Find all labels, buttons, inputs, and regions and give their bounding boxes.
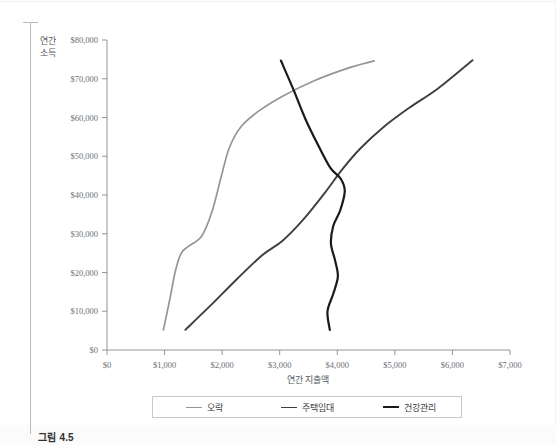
x-tick-label: $1,000 bbox=[153, 360, 176, 370]
chart-svg: $0$10,000$20,000$30,000$40,000$50,000$60… bbox=[0, 0, 556, 400]
series-line-건강관리 bbox=[281, 61, 345, 330]
y-tick-label: $0 bbox=[90, 345, 99, 355]
legend-swatch-icon bbox=[186, 407, 202, 408]
x-axis-ticks: $0$1,000$2,000$3,000$4,000$5,000$6,000$7… bbox=[103, 350, 522, 370]
y-tick-label: $70,000 bbox=[70, 74, 98, 84]
series-group bbox=[163, 60, 472, 330]
legend-item-주택임대[interactable]: 주택임대 bbox=[256, 401, 359, 414]
x-tick-label: $6,000 bbox=[441, 360, 464, 370]
x-tick-label: $2,000 bbox=[210, 360, 233, 370]
legend-item-오락[interactable]: 오락 bbox=[153, 401, 256, 414]
figure-page: $0$10,000$20,000$30,000$40,000$50,000$60… bbox=[0, 0, 556, 445]
y-axis-title-line2: 소득 bbox=[40, 48, 56, 58]
x-tick-label: $3,000 bbox=[268, 360, 291, 370]
x-tick-label: $5,000 bbox=[383, 360, 406, 370]
series-line-오락 bbox=[163, 61, 374, 330]
legend-swatch-icon bbox=[383, 406, 399, 408]
y-axis-ticks: $0$10,000$20,000$30,000$40,000$50,000$60… bbox=[70, 35, 107, 355]
legend-label: 주택임대 bbox=[302, 401, 334, 414]
series-line-주택임대 bbox=[185, 60, 472, 330]
y-axis-title-line1: 연간 bbox=[40, 36, 56, 46]
x-tick-label: $0 bbox=[103, 360, 112, 370]
legend-label: 건강관리 bbox=[404, 401, 436, 414]
y-tick-label: $60,000 bbox=[70, 113, 98, 123]
y-tick-label: $80,000 bbox=[70, 35, 98, 45]
legend-item-건강관리[interactable]: 건강관리 bbox=[358, 401, 461, 414]
x-tick-label: $7,000 bbox=[498, 360, 521, 370]
y-tick-label: $40,000 bbox=[70, 190, 98, 200]
y-tick-label: $30,000 bbox=[70, 229, 98, 239]
line-chart: $0$10,000$20,000$30,000$40,000$50,000$60… bbox=[0, 0, 556, 400]
legend-label: 오락 bbox=[207, 401, 223, 414]
y-tick-label: $20,000 bbox=[70, 268, 98, 278]
chart-legend: 오락주택임대건강관리 bbox=[152, 396, 462, 418]
page-bottom-band bbox=[0, 425, 556, 445]
y-tick-label: $10,000 bbox=[70, 306, 98, 316]
y-tick-label: $50,000 bbox=[70, 151, 98, 161]
figure-caption: 그림 4.5 bbox=[38, 429, 74, 444]
x-tick-label: $4,000 bbox=[326, 360, 349, 370]
legend-swatch-icon bbox=[281, 407, 297, 408]
x-axis-title: 연간 지출액 bbox=[287, 374, 330, 385]
